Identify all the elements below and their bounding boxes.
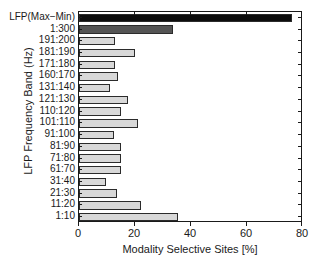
y-tick-label: 71:80	[1, 152, 75, 163]
y-tick-label: 1:300	[1, 23, 75, 34]
bar	[79, 96, 128, 104]
y-tick-label: 31:40	[1, 175, 75, 186]
bar	[79, 143, 121, 151]
plot-area	[78, 11, 302, 222]
y-tick-label: 191:200	[1, 34, 75, 45]
x-tick-label: 60	[226, 227, 266, 239]
x-tick-label: 40	[170, 227, 210, 239]
bar-chart-figure: LFP Frequency Band (Hz) LFP(Max−Min)1:30…	[0, 0, 323, 266]
y-tick-label: 1:10	[1, 210, 75, 221]
bar	[79, 119, 138, 127]
x-tick-mark	[301, 222, 302, 226]
x-tick-mark	[246, 222, 247, 226]
x-tick-label: 20	[114, 227, 154, 239]
x-tick-mark	[134, 222, 135, 226]
y-tick-label: LFP(Max−Min)	[1, 11, 75, 22]
x-tick-label: 0	[58, 227, 98, 239]
bar	[79, 154, 121, 162]
bar	[79, 25, 173, 33]
bar	[79, 72, 118, 80]
x-axis-title: Modality Selective Sites [%]	[78, 243, 302, 255]
y-tick-label: 110:120	[1, 105, 75, 116]
bar	[79, 14, 292, 22]
bar	[79, 189, 117, 197]
bar	[79, 166, 121, 174]
bar	[79, 201, 141, 209]
y-tick-label: 61:70	[1, 163, 75, 174]
y-tick-label: 11:20	[1, 198, 75, 209]
y-tick-label: 21:30	[1, 187, 75, 198]
bar	[79, 37, 115, 45]
bar	[79, 213, 178, 221]
bar	[79, 61, 115, 69]
x-tick-mark	[190, 222, 191, 226]
y-tick-label: 101:110	[1, 116, 75, 127]
bar	[79, 107, 121, 115]
y-tick-label: 81:90	[1, 140, 75, 151]
bar	[79, 131, 114, 139]
y-axis-tick-labels: LFP(Max−Min)1:300191:200181:190171:18016…	[0, 11, 75, 222]
y-tick-label: 121:130	[1, 93, 75, 104]
bar	[79, 178, 106, 186]
y-tick-label: 131:140	[1, 81, 75, 92]
bar	[79, 49, 135, 57]
x-tick-mark	[78, 222, 79, 226]
y-tick-label: 171:180	[1, 58, 75, 69]
y-tick-label: 181:190	[1, 46, 75, 57]
x-tick-label: 80	[282, 227, 322, 239]
bar	[79, 84, 110, 92]
y-tick-label: 160:170	[1, 69, 75, 80]
y-tick-label: 91:100	[1, 128, 75, 139]
